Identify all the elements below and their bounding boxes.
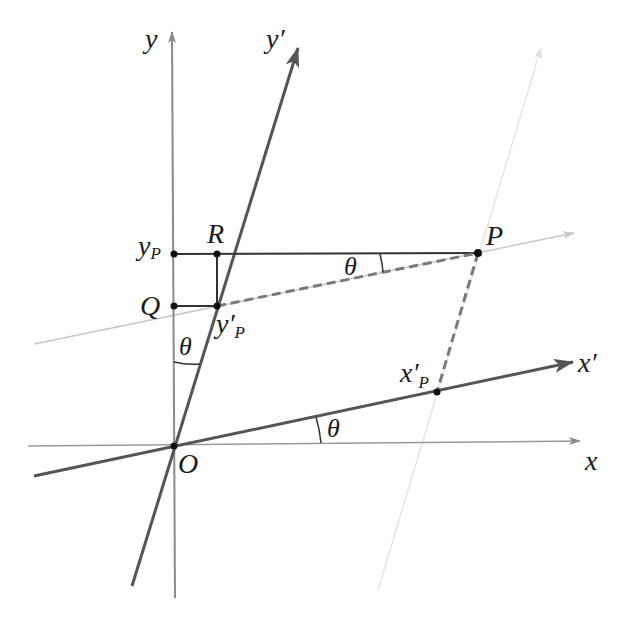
point-y-p <box>171 251 178 258</box>
theta-arc-left <box>174 362 200 364</box>
label-y-prime-p: y′P <box>213 308 245 342</box>
label-y-p: yP <box>135 230 161 263</box>
label-theta-bottom: θ <box>327 414 340 443</box>
label-origin: O <box>178 448 198 479</box>
rotated-axes-diagram: y y′ x x′ O P Q R yP y′P x′P θ θ θ <box>0 0 623 625</box>
label-y-prime-axis: y′ <box>263 23 285 54</box>
point-q <box>171 303 178 310</box>
point-p <box>474 249 482 257</box>
label-y-axis: y <box>142 23 158 54</box>
label-x-prime-p: x′P <box>399 357 429 392</box>
theta-arc-bottom <box>316 417 321 443</box>
point-x-prime-p <box>434 389 441 396</box>
label-x-axis: x <box>584 445 598 476</box>
line-through-p-parallel-y-prime <box>378 48 541 590</box>
label-x-prime-axis: x′ <box>577 347 597 378</box>
label-theta-left: θ <box>179 332 192 361</box>
point-r <box>214 251 221 258</box>
label-q: Q <box>140 290 160 321</box>
theta-arc-top <box>380 254 383 272</box>
x-prime-axis <box>34 362 573 476</box>
label-r: R <box>206 218 224 249</box>
label-theta-top: θ <box>344 252 357 281</box>
label-p: P <box>485 220 503 251</box>
x-axis <box>28 441 580 446</box>
point-origin <box>171 443 178 450</box>
